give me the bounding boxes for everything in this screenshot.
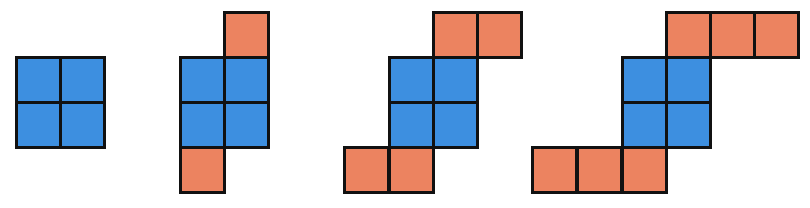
blue-square xyxy=(665,56,712,104)
blue-square xyxy=(621,101,668,149)
orange-square xyxy=(709,11,756,59)
orange-square xyxy=(531,146,578,194)
orange-square xyxy=(753,11,800,59)
orange-square xyxy=(576,146,623,194)
figure-4 xyxy=(0,0,810,208)
orange-square xyxy=(665,11,712,59)
orange-square xyxy=(621,146,668,194)
blue-square xyxy=(621,56,668,104)
blue-square xyxy=(665,101,712,149)
